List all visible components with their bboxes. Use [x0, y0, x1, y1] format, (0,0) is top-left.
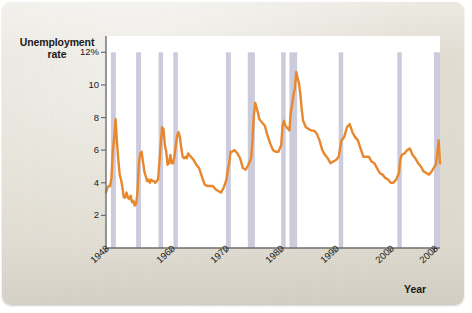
recession-band: [281, 52, 286, 248]
y-tick-label: 8: [65, 112, 99, 123]
recession-band: [136, 52, 141, 248]
x-axis-title: Year: [404, 283, 426, 295]
y-tick-label: 2: [65, 209, 99, 220]
plot-background: [106, 36, 440, 248]
recession-band: [397, 52, 402, 248]
y-tick-label: 10: [65, 79, 99, 90]
recession-band: [226, 52, 231, 248]
y-tick-label: 4: [65, 177, 99, 188]
plot-area-group: [101, 36, 440, 253]
y-tick-label: 6: [65, 144, 99, 155]
y-tick-label: 12%: [65, 46, 99, 57]
chart-page: Unemployment rate Year 12%108642 1948196…: [0, 0, 472, 313]
